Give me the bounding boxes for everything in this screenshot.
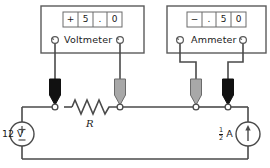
current-source-label: 1 2 A (219, 127, 233, 142)
probe-4[interactable] (223, 79, 234, 105)
voltmeter-digit-0: + (63, 14, 78, 24)
voltmeter-digit-2: . (93, 14, 107, 24)
probe-3[interactable] (191, 79, 202, 105)
voltmeter-left-jack[interactable] (52, 37, 59, 44)
fraction-numerator: 1 (219, 127, 223, 134)
ammeter-digit-0: − (187, 14, 202, 24)
ammeter-digit-3: 0 (231, 14, 246, 24)
ammeter-left-jack[interactable] (177, 37, 184, 44)
voltmeter-digit-3: 0 (107, 14, 122, 24)
resistor-label: R (86, 118, 94, 129)
current-source-unit: A (226, 128, 233, 139)
fraction-denominator: 2 (219, 134, 223, 142)
voltmeter-right-jack[interactable] (117, 37, 124, 44)
voltmeter-label: Voltmeter (64, 34, 112, 45)
current-source[interactable] (236, 122, 260, 146)
ammeter-right-jack[interactable] (240, 37, 247, 44)
circuit-diagram: + 5 . 0 Voltmeter − . 5 0 Ammeter 12 V R… (0, 0, 270, 168)
ammeter-label: Ammeter (191, 34, 237, 45)
ammeter-digit-1: . (202, 14, 216, 24)
ammeter-digit-2: 5 (216, 14, 231, 24)
probe-2[interactable] (115, 79, 126, 105)
current-source-fraction: 1 2 (219, 127, 223, 142)
voltmeter-digit-1: 5 (78, 14, 93, 24)
circuit-svg (0, 0, 270, 168)
resistor[interactable] (72, 100, 112, 114)
voltage-source-label: 12 V (2, 128, 24, 139)
probe-1[interactable] (50, 79, 61, 105)
